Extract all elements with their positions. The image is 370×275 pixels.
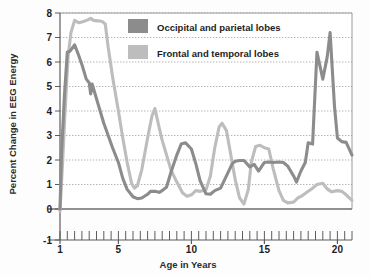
x-tick-label: 10 (186, 244, 198, 255)
x-tick-label: 5 (116, 244, 122, 255)
y-tick-label: 4 (46, 106, 52, 117)
y-axis-title: Percent Change in EEG Energy (7, 53, 18, 195)
legend-label: Frontal and temporal lobes (157, 48, 279, 59)
x-axis-tick-labels: 15101520 (57, 240, 343, 255)
chart-figure: -1012345678 15101520 Age in Years Percen… (0, 0, 370, 275)
plot-background (60, 13, 352, 209)
eeg-energy-line-chart: -1012345678 15101520 Age in Years Percen… (0, 0, 370, 275)
y-tick-label: 2 (46, 155, 52, 166)
y-tick-label: 8 (46, 8, 52, 19)
y-tick-label: 6 (46, 57, 52, 68)
y-tick-label: 0 (46, 204, 52, 215)
legend-label: Occipital and parietal lobes (157, 22, 281, 33)
y-tick-label: 5 (46, 81, 52, 92)
x-axis-title: Age in Years (160, 259, 217, 270)
x-axis-minor-ticks (60, 231, 352, 240)
y-axis-tick-labels: -1012345678 (43, 8, 60, 246)
legend-swatch (128, 45, 148, 59)
y-tick-label: 1 (46, 179, 52, 190)
x-tick-label: 1 (57, 244, 63, 255)
x-tick-label: 15 (259, 244, 271, 255)
y-tick-label: 3 (46, 130, 52, 141)
x-tick-label: 20 (332, 244, 344, 255)
y-tick-label: 7 (46, 32, 52, 43)
legend-swatch (128, 19, 148, 33)
y-tick-label: -1 (43, 235, 52, 246)
